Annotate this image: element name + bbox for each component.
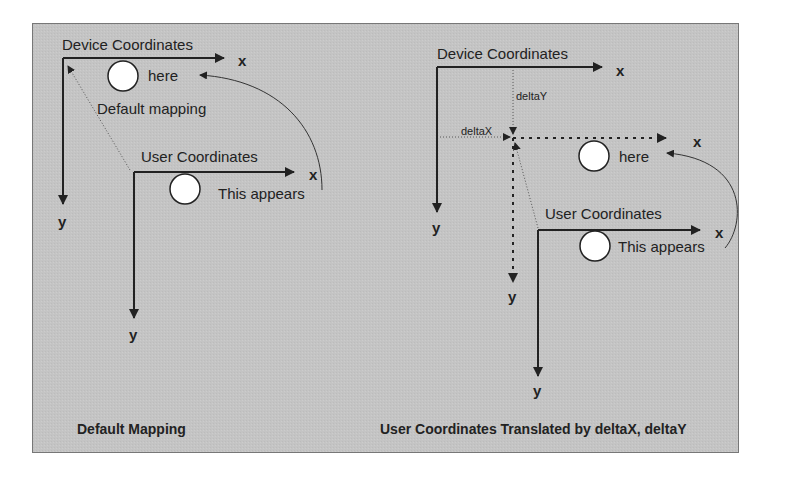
right-device-coordinates-label: Device Coordinates [437, 45, 568, 62]
diagram-canvas: Device Coordinates x y here Default mapp… [0, 0, 796, 477]
left-device-x-label: x [238, 52, 247, 69]
left-appears-label: This appears [218, 185, 305, 202]
right-translated-x-label: x [693, 133, 702, 150]
right-user-coordinates-label: User Coordinates [545, 205, 662, 222]
right-here-label: here [619, 148, 649, 165]
left-caption: Default Mapping [77, 421, 186, 437]
left-device-coordinates-label: Device Coordinates [62, 36, 193, 53]
right-user-x-label: x [715, 224, 724, 241]
left-here-circle [108, 61, 138, 91]
left-here-label: here [148, 67, 178, 84]
right-device-y-label: y [432, 219, 441, 236]
left-appears-circle [170, 174, 200, 204]
right-delta-y-label: deltaY [516, 90, 548, 102]
right-device-x-label: x [616, 62, 625, 79]
right-translated-y-label: y [508, 288, 517, 305]
left-user-y-label: y [129, 326, 138, 343]
left-user-coordinates-label: User Coordinates [141, 148, 258, 165]
right-here-circle [579, 141, 609, 171]
right-appears-label: This appears [618, 238, 705, 255]
left-default-mapping-label: Default mapping [97, 100, 206, 117]
right-user-y-label: y [533, 382, 542, 399]
right-delta-x-label: deltaX [461, 125, 493, 137]
right-appears-circle [580, 231, 610, 261]
right-caption: User Coordinates Translated by deltaX, d… [380, 421, 687, 437]
left-device-y-label: y [58, 213, 67, 230]
left-user-x-label: x [309, 166, 318, 183]
